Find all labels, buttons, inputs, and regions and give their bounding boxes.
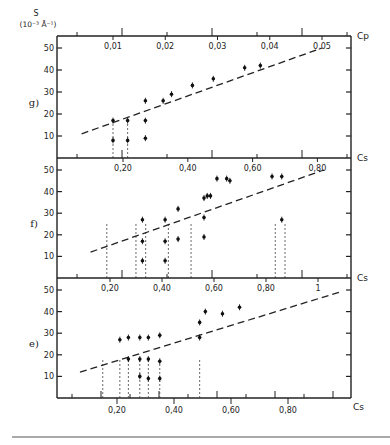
y-tick-label: 20 [44, 351, 54, 360]
bottom-axis-label: Cs [353, 402, 364, 412]
panel-g: 1020304050g)0,010,020,030,040,05Cp [29, 28, 369, 158]
bottom-axis-tick-label: 0,80 [279, 406, 297, 415]
top-axis-tick-label: 0,01 [104, 42, 122, 51]
y-tick-label: 50 [44, 286, 54, 295]
top-axis-tick-label: 0,40 [179, 164, 197, 173]
panel-f: 1020304050f)0,200,400,600,80Cs [30, 150, 368, 278]
y-axis-symbol: S [33, 9, 38, 18]
top-axis-tick-label: 0,60 [205, 284, 223, 293]
y-tick-label: 30 [44, 329, 54, 338]
top-axis-tick-label: 0,02 [156, 42, 174, 51]
top-axis-label: Cs [357, 273, 368, 283]
y-tick-label: 50 [44, 44, 54, 53]
y-tick-label: 40 [44, 66, 54, 75]
bottom-axis-tick-label: 0,40 [165, 406, 183, 415]
top-axis-tick-label: 0,60 [244, 164, 262, 173]
panel-label: f) [30, 218, 38, 229]
y-tick-label: 30 [44, 88, 54, 97]
figure-canvas: S (10⁻³ Å⁻¹) 1020304050g)0,010,020,030,0… [0, 0, 390, 445]
fit-line [91, 170, 324, 252]
y-tick-label: 20 [44, 231, 54, 240]
top-axis-tick-label: 0,20 [101, 284, 119, 293]
bottom-axis-tick-label: 0,20 [108, 406, 126, 415]
y-tick-label: 10 [44, 372, 54, 381]
top-axis-label: Cs [357, 153, 368, 163]
top-axis-tick-label: 0,80 [257, 284, 275, 293]
y-tick-label: 40 [44, 308, 54, 317]
top-axis-tick-label: 0,40 [153, 284, 171, 293]
y-tick-label: 20 [44, 110, 54, 119]
bottom-axis-tick-label: 0,60 [222, 406, 240, 415]
panel-label: g) [29, 97, 39, 108]
y-axis-unit: (10⁻³ Å⁻¹) [20, 20, 57, 29]
y-tick-label: 30 [44, 209, 54, 218]
top-axis-tick-label: 0,20 [114, 164, 132, 173]
top-axis-tick-label: 0,04 [261, 42, 279, 51]
top-axis-tick-label: 0,80 [308, 164, 326, 173]
top-axis-tick-label: 0,03 [209, 42, 227, 51]
fit-line [82, 48, 322, 134]
top-axis-tick-label: 1 [315, 284, 320, 293]
panel-label: e) [29, 338, 39, 349]
y-tick-label: 50 [44, 166, 54, 175]
y-tick-label: 40 [44, 188, 54, 197]
top-axis-label: Cp [357, 31, 369, 41]
y-tick-label: 10 [44, 252, 54, 261]
panel-e: 1020304050e)0,200,400,600,801Cs0,200,400… [29, 270, 368, 415]
fit-line [80, 292, 339, 372]
y-tick-label: 10 [44, 132, 54, 141]
chart-panels: 1020304050g)0,010,020,030,040,05Cp102030… [29, 28, 369, 415]
